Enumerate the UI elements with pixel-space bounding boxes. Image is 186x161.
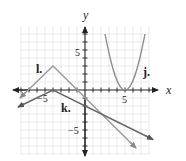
series-label-k: k. [61, 101, 71, 115]
y-tick-label-pos5: 5 [75, 47, 80, 58]
series-label-j: j. [142, 65, 150, 79]
graph-plot: x y 5 −5 5 −5 j. l. k. [0, 0, 186, 161]
series-label-l: l. [36, 62, 42, 76]
x-axis-label: x [165, 83, 172, 97]
axes [13, 27, 158, 156]
y-axis-label: y [82, 8, 89, 22]
y-tick-label-neg5: −5 [68, 125, 79, 136]
x-tick-label-pos5: 5 [122, 94, 127, 105]
